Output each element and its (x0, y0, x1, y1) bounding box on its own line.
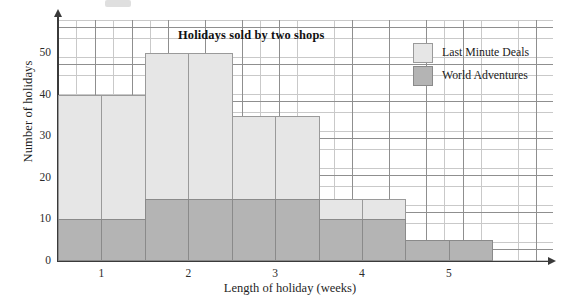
bar-world-adventures-1.5-2 (145, 199, 190, 261)
y-tick-label: 0 (25, 254, 51, 266)
bar-world-adventures-0.5-1 (58, 219, 103, 261)
bar-world-adventures-3-3.5 (275, 199, 320, 261)
legend-item-label: Last Minute Deals (442, 45, 529, 60)
legend-item-last-minute-deals: Last Minute Deals (413, 42, 529, 63)
holidays-bar-chart: 0102030405012345 Holidays sold by two sh… (0, 0, 580, 305)
y-tick-label: 10 (25, 212, 51, 224)
legend-item-world-adventures: World Adventures (413, 65, 529, 86)
x-tick-label: 3 (264, 267, 286, 279)
chart-title: Holidays sold by two shops (178, 28, 324, 43)
x-tick-label: 5 (438, 267, 460, 279)
x-tick-label: 1 (90, 267, 112, 279)
x-tick-label: 2 (177, 267, 199, 279)
legend-item-label: World Adventures (442, 68, 528, 83)
legend-swatch-icon (413, 43, 433, 63)
legend: Last Minute Deals World Adventures (413, 42, 529, 88)
bar-world-adventures-3.5-4 (319, 219, 364, 261)
bar-world-adventures-2-2.5 (188, 199, 233, 261)
bar-world-adventures-4-4.5 (362, 219, 407, 261)
scan-artifact (105, 0, 131, 7)
bar-world-adventures-2.5-3 (232, 199, 277, 261)
bar-world-adventures-4.5-5 (405, 240, 450, 261)
x-axis-label: Length of holiday (weeks) (150, 281, 430, 296)
bar-world-adventures-1-1.5 (101, 219, 146, 261)
bar-world-adventures-5-5.5 (449, 240, 494, 261)
x-axis-arrow-icon (548, 257, 556, 265)
y-axis-arrow-icon (54, 9, 62, 17)
y-axis-label: Number of holidays (21, 32, 36, 192)
legend-swatch-icon (413, 66, 433, 86)
x-tick-label: 4 (351, 267, 373, 279)
